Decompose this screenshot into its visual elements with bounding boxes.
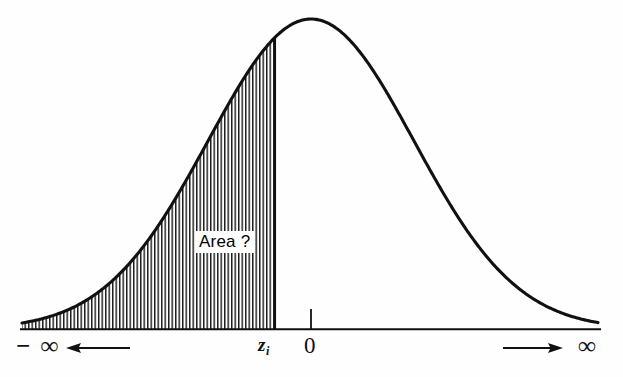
- z-subscript: i: [266, 344, 269, 358]
- distribution-plot: [0, 0, 623, 377]
- origin-label: 0: [304, 334, 316, 357]
- z-letter: z: [258, 334, 265, 355]
- z-sub-i-label: zi: [258, 335, 269, 357]
- normal-distribution-figure: − ∞ zi 0 ∞ Area ?: [0, 0, 623, 377]
- left-arrow-icon: [66, 343, 130, 353]
- positive-infinity-label: ∞: [578, 333, 596, 358]
- shaded-tail-area: [22, 37, 275, 329]
- negative-infinity-label: − ∞: [16, 333, 60, 358]
- right-arrow-icon: [503, 343, 563, 353]
- normal-curve: [22, 19, 598, 323]
- area-question-label: Area ?: [195, 231, 254, 253]
